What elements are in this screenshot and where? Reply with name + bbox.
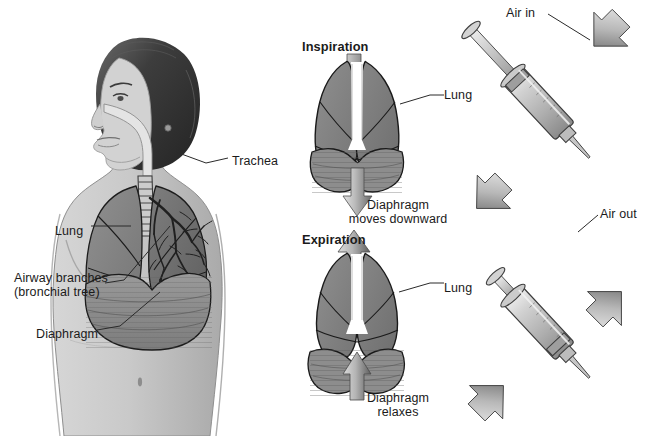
air-out-plunger-arrow [460,369,520,429]
nozzle-top [569,136,591,159]
air-in-plunger-arrow [460,165,520,225]
air-out-nozzle-arrow [578,275,639,336]
heading-expiration: Expiration [302,233,366,247]
leader-lung-expiration [399,283,444,292]
syringe-panel: Air in Air out [460,0,647,436]
heading-inspiration: Inspiration [302,40,369,54]
label-air-in: Air in [506,6,535,20]
inspiration-diagram [310,54,444,216]
syringe-air-out [460,215,639,429]
label-lung-anatomy: Lung [55,224,83,238]
label-air-out: Air out [600,207,637,221]
leader-air-out [578,215,598,232]
caption-expiration: Diaphragm relaxes [318,391,478,419]
expiration-diagram [308,230,444,400]
respiratory-system-figure: Trachea Lung Airway branches (bronchial … [0,0,647,436]
anatomy-panel: Trachea Lung Airway branches (bronchial … [0,0,300,436]
label-diaphragm-anatomy: Diaphragm [36,327,98,341]
nozzle-bottom [569,356,591,379]
syringe-air-in [456,2,638,226]
label-trachea: Trachea [232,154,278,168]
leader-air-in [548,14,590,40]
leader-lung-inspiration [400,95,444,104]
label-airway-branches: Airway branches (bronchial tree) [14,271,108,299]
earring [165,125,171,131]
air-in-nozzle-arrow [577,2,639,64]
caption-inspiration: Diaphragm moves downward [318,198,478,226]
anatomy-illustration [0,0,300,436]
navel [138,378,142,387]
